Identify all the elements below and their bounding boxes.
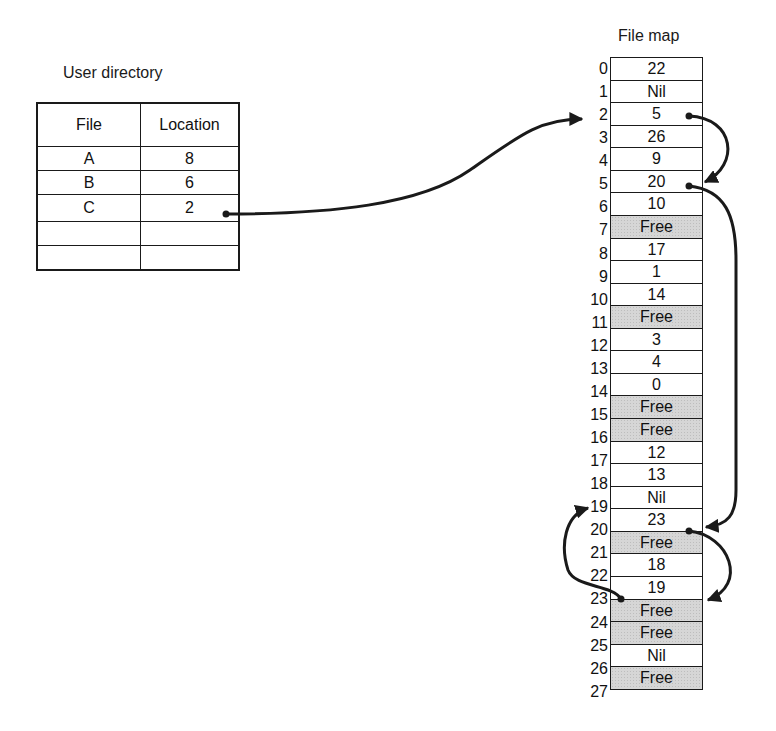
file-map-cell: 23: [611, 509, 702, 532]
column-header-file: File: [37, 103, 141, 147]
file-map-index: 19: [560, 495, 608, 518]
directory-file-cell: [37, 222, 141, 246]
file-map-cell: Nil: [611, 81, 702, 104]
directory-row: [37, 246, 239, 271]
file-map-index: 22: [560, 564, 608, 587]
directory-row: A 8: [37, 147, 239, 171]
file-map-index: 6: [560, 195, 608, 218]
file-map-index: 3: [560, 126, 608, 149]
file-map-cell: 13: [611, 464, 702, 487]
directory-row: C 2: [37, 195, 239, 222]
file-map-index: 18: [560, 472, 608, 495]
file-map-cell: 19: [611, 577, 702, 600]
file-map-cell: 20: [611, 171, 702, 194]
file-map-cell: 12: [611, 442, 702, 465]
file-map-cell-free: Free: [611, 622, 702, 645]
file-map-index: 14: [560, 380, 608, 403]
file-map-index: 2: [560, 103, 608, 126]
file-map-cell-free: Free: [611, 216, 702, 239]
file-map-cell: 26: [611, 126, 702, 149]
arrow-directory-to-block-2: [223, 119, 583, 218]
directory-row: B 6: [37, 171, 239, 195]
file-map-cell: 9: [611, 148, 702, 171]
file-map-index: 21: [560, 541, 608, 564]
file-map-index: 24: [560, 611, 608, 634]
directory-location-cell: [141, 222, 240, 246]
file-map-index: 27: [560, 680, 608, 703]
file-map-cell: Nil: [611, 487, 702, 510]
file-map-index: 8: [560, 242, 608, 265]
file-map-cell: 18: [611, 554, 702, 577]
directory-row: [37, 222, 239, 246]
file-map-cell-free: Free: [611, 306, 702, 329]
file-map-index: 5: [560, 172, 608, 195]
file-map-cell: 4: [611, 351, 702, 374]
file-map-cell: 1: [611, 261, 702, 284]
file-map-index: 20: [560, 518, 608, 541]
file-map-index: 15: [560, 403, 608, 426]
user-directory-table: File Location A 8 B 6 C 2: [36, 102, 240, 271]
file-map-cell-free: Free: [611, 600, 702, 623]
directory-location-cell: 6: [141, 171, 240, 195]
file-map-cell-free: Free: [611, 419, 702, 442]
file-map-title: File map: [618, 27, 679, 45]
directory-file-cell: B: [37, 171, 141, 195]
file-map-index: 23: [560, 587, 608, 610]
column-header-location: Location: [141, 103, 240, 147]
file-map-index: 26: [560, 657, 608, 680]
file-map-index-column: 0123456789101112131415161718192021222324…: [560, 57, 608, 703]
file-map-cell: 14: [611, 284, 702, 307]
file-map-index: 7: [560, 218, 608, 241]
file-map-index: 0: [560, 57, 608, 80]
file-map-cell: 0: [611, 374, 702, 397]
file-map-index: 16: [560, 426, 608, 449]
file-map-cell-free: Free: [611, 532, 702, 555]
file-map-index: 10: [560, 288, 608, 311]
file-map-cell: 22: [611, 58, 702, 81]
directory-file-cell: A: [37, 147, 141, 171]
file-map-index: 17: [560, 449, 608, 472]
user-directory-title: User directory: [63, 64, 163, 82]
file-map-index: 4: [560, 149, 608, 172]
file-map-index: 12: [560, 334, 608, 357]
file-map-cell: 17: [611, 239, 702, 262]
file-map-index: 1: [560, 80, 608, 103]
file-map-cell: Nil: [611, 645, 702, 668]
file-map-index: 13: [560, 357, 608, 380]
file-map-cell: 10: [611, 193, 702, 216]
file-map-cell: 5: [611, 103, 702, 126]
file-map-table: 22Nil52692010Free17114Free340FreeFree121…: [610, 57, 703, 690]
file-map-index: 25: [560, 634, 608, 657]
directory-file-cell: C: [37, 195, 141, 222]
directory-file-cell: [37, 246, 141, 271]
file-map-index: 11: [560, 311, 608, 334]
file-map-cell-free: Free: [611, 667, 702, 689]
directory-location-cell: [141, 246, 240, 271]
file-map-index: 9: [560, 265, 608, 288]
directory-header-row: File Location: [37, 103, 239, 147]
directory-location-cell: 8: [141, 147, 240, 171]
file-map-cell: 3: [611, 329, 702, 352]
directory-location-cell: 2: [141, 195, 240, 222]
file-map-cell-free: Free: [611, 396, 702, 419]
